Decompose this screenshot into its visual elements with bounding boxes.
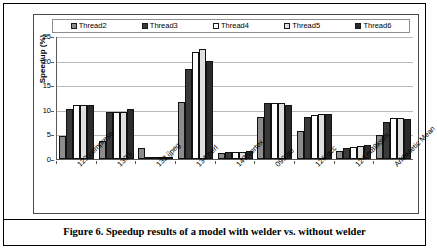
bar[interactable] [145, 157, 152, 159]
bar[interactable] [343, 148, 350, 159]
legend-swatch-icon [142, 23, 148, 29]
legend-swatch-icon [213, 23, 219, 29]
bar[interactable] [199, 49, 206, 159]
y-tick-mark [51, 62, 54, 63]
x-label-cell: 134.perl [175, 161, 215, 213]
x-tick-mark [56, 161, 57, 164]
x-tick-mark [334, 161, 335, 164]
x-tick-mark [175, 161, 176, 164]
bar-group [294, 37, 334, 159]
legend-label: Thread6 [363, 22, 391, 30]
legend-item-thread3[interactable]: Thread3 [142, 22, 178, 30]
x-label-cell: 099.go [254, 161, 294, 213]
y-tick-label: 20 [43, 58, 51, 66]
bar[interactable] [192, 52, 199, 159]
legend-item-thread4[interactable]: Thread4 [213, 22, 249, 30]
x-label-cell: 124.m88ksim [334, 161, 374, 213]
bar[interactable] [304, 117, 311, 159]
chart-legend: Thread2Thread3Thread4Thread5Thread6 [52, 19, 410, 33]
legend-label: Thread5 [292, 22, 320, 30]
x-tick-mark [135, 161, 136, 164]
x-label-cell: 130.li [96, 161, 136, 213]
y-tick-label: 15 [43, 82, 51, 90]
y-tick-mark [51, 135, 54, 136]
bars-layer [57, 37, 413, 159]
x-label-cell: 147.vortex [215, 161, 255, 213]
bar[interactable] [264, 103, 271, 159]
legend-swatch-icon [71, 23, 77, 29]
y-tick-label: 25 [43, 33, 51, 41]
x-label-cell: 129.compress [56, 161, 96, 213]
bar[interactable] [225, 152, 232, 159]
y-tick-mark [51, 111, 54, 112]
bar[interactable] [138, 148, 145, 159]
bar[interactable] [390, 118, 397, 159]
bar-group [136, 37, 176, 159]
figure-frame: Thread2Thread3Thread4Thread5Thread6 Spee… [3, 3, 426, 246]
y-axis: 0510152025 [34, 37, 54, 160]
chart-container: Thread2Thread3Thread4Thread5Thread6 Spee… [33, 14, 419, 214]
bar[interactable] [311, 115, 318, 159]
caption-divider [4, 219, 425, 220]
y-tick-label: 10 [43, 107, 51, 115]
bar[interactable] [178, 102, 185, 159]
bar-group [215, 37, 255, 159]
legend-swatch-icon [284, 23, 290, 29]
x-tick-mark [215, 161, 216, 164]
plot-area [56, 37, 413, 160]
x-label-cell: 132.ijpeg [135, 161, 175, 213]
x-label-cell: Arithmetic Mean [373, 161, 413, 213]
bar-group [176, 37, 216, 159]
legend-label: Thread2 [79, 22, 107, 30]
bar-group [57, 37, 97, 159]
bar[interactable] [73, 105, 80, 159]
bar-group [334, 37, 374, 159]
bar[interactable] [297, 131, 304, 159]
x-tick-mark [96, 161, 97, 164]
legend-item-thread5[interactable]: Thread5 [284, 22, 320, 30]
bar[interactable] [336, 151, 343, 159]
x-tick-mark [254, 161, 255, 164]
figure-caption: Figure 6. Speedup results of a model wit… [4, 226, 425, 237]
x-tick-mark [373, 161, 374, 164]
legend-label: Thread3 [150, 22, 178, 30]
bar[interactable] [218, 153, 225, 159]
bar[interactable] [350, 147, 357, 159]
legend-item-thread2[interactable]: Thread2 [71, 22, 107, 30]
x-axis: 129.compress130.li132.ijpeg134.perl147.v… [56, 161, 413, 213]
y-tick-mark [51, 160, 54, 161]
bar[interactable] [271, 103, 278, 159]
legend-swatch-icon [355, 23, 361, 29]
y-tick-mark [51, 86, 54, 87]
x-label-cell: 126.gcc [294, 161, 334, 213]
bar[interactable] [66, 109, 73, 159]
y-tick-mark [51, 37, 54, 38]
bar[interactable] [185, 69, 192, 159]
legend-label: Thread4 [221, 22, 249, 30]
x-tick-mark [294, 161, 295, 164]
legend-item-thread6[interactable]: Thread6 [355, 22, 391, 30]
bar[interactable] [59, 136, 66, 159]
